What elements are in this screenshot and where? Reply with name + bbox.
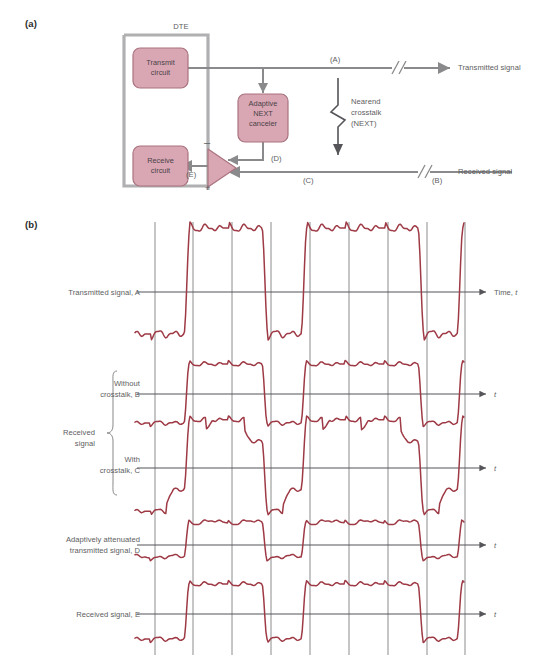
signal-label-d: (D): [271, 154, 282, 164]
received-signal-input-label: Received signal: [458, 167, 512, 177]
crosstalk-label-line2: crosstalk: [351, 108, 381, 118]
trace-label-c-line2: crosstalk, C: [10, 466, 140, 476]
trace-label-b-line2: crosstalk, B: [10, 390, 140, 400]
summing-amplifier: [208, 149, 236, 187]
receive-circuit-label-line2: circuit: [133, 166, 188, 175]
trace-label-a: Transmitted signal, A: [10, 288, 140, 298]
trace-label-c-line1: With: [10, 455, 140, 465]
time-axis-variable: t: [515, 288, 517, 297]
receive-circuit-label-line1: Receive: [133, 156, 188, 165]
panel-b-tag: (b): [25, 219, 38, 230]
time-axis-label-d: t: [494, 541, 496, 551]
waveform-trace-D: [135, 520, 464, 561]
next-canceler-label-line3: canceler: [238, 119, 288, 128]
next-canceler-label-line2: NEXT: [238, 109, 288, 118]
signal-label-a: (A): [330, 55, 340, 65]
received-signal-group-label-line2: signal: [20, 439, 95, 449]
figure-container: (a) (b): [0, 0, 546, 668]
summer-plus-sign: +: [205, 184, 210, 194]
transmit-circuit-label-line2: circuit: [133, 68, 188, 77]
time-axis-label-b: t: [494, 390, 496, 400]
waveform-trace-B: [135, 361, 464, 427]
trace-label-d-line1: Adaptively attenuated: [10, 535, 140, 545]
time-axis-label-c: t: [494, 464, 496, 474]
time-axis-label-a: Time, t: [494, 288, 517, 298]
time-axis-word: Time,: [494, 288, 515, 297]
dte-label: DTE: [156, 22, 206, 32]
trace-label-b-line1: Without: [10, 379, 140, 389]
waveform-time-axes: [137, 292, 486, 614]
crosstalk-label-line3: (NEXT): [351, 119, 377, 129]
diagram-wiring: [180, 61, 512, 178]
crosstalk-label-line1: Nearend: [351, 97, 380, 107]
transmitted-signal-output-label: Transmitted signal: [458, 63, 521, 73]
next-canceler-label-line1: Adaptive: [238, 99, 288, 108]
waveform-trace-E: [135, 581, 464, 643]
summer-minus-sign: –: [204, 138, 210, 148]
waveform-traces: [135, 222, 464, 643]
signal-label-b: (B): [432, 176, 442, 186]
signal-label-c: (C): [303, 176, 314, 186]
signal-label-e: (E): [186, 170, 196, 180]
trace-label-e: Received signal, E: [10, 610, 140, 620]
received-signal-group-label-line1: Received: [20, 428, 95, 438]
panel-a-tag: (a): [25, 18, 37, 29]
waveform-trace-C: [135, 416, 464, 515]
transmit-circuit-label-line1: Transmit: [133, 58, 188, 67]
waveform-trace-A: [135, 222, 464, 340]
trace-label-d-line2: transmitted signal, D: [10, 546, 140, 556]
waveform-gridlines: [155, 222, 465, 655]
time-axis-label-e: t: [494, 610, 496, 620]
